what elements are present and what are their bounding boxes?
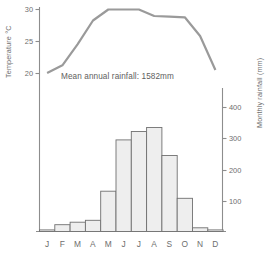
bar-may — [101, 191, 116, 231]
right-tick-label-100: 100 — [229, 197, 241, 206]
month-label-aug: A — [151, 239, 157, 249]
right-tick-label-400: 400 — [229, 103, 241, 112]
bar-june — [116, 140, 131, 232]
bar-december — [208, 230, 223, 232]
left-tick-label-20: 20 — [25, 69, 33, 78]
month-label-jun: J — [121, 239, 125, 249]
month-label-feb: F — [60, 239, 65, 249]
left-axis-title: Temperature °C — [4, 25, 13, 78]
month-label-jul: J — [137, 239, 141, 249]
bar-february — [55, 225, 70, 232]
right-axis-group: 400 300 200 100 Monthly rainfall (mm) — [223, 58, 265, 231]
bar-april — [85, 220, 100, 231]
climate-graph: 30 25 20 Temperature °C 400 300 200 100 … — [0, 0, 267, 253]
temperature-line — [47, 10, 215, 74]
bar-september — [162, 156, 177, 232]
left-axis-group: 30 25 20 Temperature °C — [4, 5, 40, 231]
left-tick-label-25: 25 — [25, 37, 33, 46]
bar-july — [131, 132, 146, 232]
right-tick-label-200: 200 — [229, 166, 241, 175]
bar-august — [147, 128, 162, 232]
month-label-may: M — [105, 239, 112, 249]
bar-november — [193, 228, 208, 232]
right-tick-label-300: 300 — [229, 134, 241, 143]
bar-march — [70, 222, 85, 231]
month-label-sep: S — [167, 239, 173, 249]
month-labels-group: J F M A M J J A S O N D — [45, 239, 219, 249]
month-label-jan: J — [45, 239, 49, 249]
bar-january — [40, 230, 55, 232]
bar-october — [177, 198, 192, 231]
month-label-nov: N — [197, 239, 203, 249]
month-label-oct: O — [181, 239, 188, 249]
rainfall-bars-group — [40, 128, 224, 232]
right-axis-title: Monthly rainfall (mm) — [255, 58, 264, 128]
month-label-dec: D — [212, 239, 218, 249]
month-label-apr: A — [90, 239, 96, 249]
left-tick-label-30: 30 — [25, 5, 33, 14]
month-label-mar: M — [74, 239, 81, 249]
mean-annual-rainfall-annotation: Mean annual rainfall: 1582mm — [61, 72, 174, 81]
